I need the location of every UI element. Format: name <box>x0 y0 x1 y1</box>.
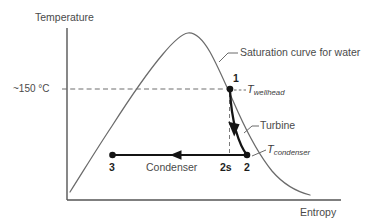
ts-diagram-figure: Temperature Entropy ~150 °C Saturation c… <box>0 0 367 224</box>
x-axis-label: Entropy <box>300 206 336 218</box>
state-point-3-label: 3 <box>109 161 115 173</box>
y-axis-label: Temperature <box>35 11 94 23</box>
turbine-process-curve <box>228 90 247 155</box>
state-point-1-label: 1 <box>233 72 239 84</box>
state-point-2-marker <box>244 152 251 159</box>
t-wellhead-label: Twellhead <box>247 83 285 95</box>
saturation-label-leader-line <box>219 53 238 62</box>
t-wellhead-subscript: wellhead <box>254 88 285 97</box>
diagram-canvas <box>0 0 367 224</box>
state-point-3-marker <box>109 152 116 159</box>
turbine-label: Turbine <box>260 119 295 131</box>
y-axis-tick-label: ~150 °C <box>13 83 50 94</box>
state-point-2s-label: 2s <box>220 161 232 173</box>
saturation-curve-label: Saturation curve for water <box>240 46 360 58</box>
condenser-process-line <box>113 150 247 159</box>
condenser-label: Condenser <box>146 161 197 173</box>
t-condenser-symbol: T <box>267 143 274 155</box>
t-condenser-leader-line <box>252 150 266 156</box>
t-condenser-label: Tcondenser <box>267 143 310 155</box>
condenser-arrowhead <box>170 150 182 159</box>
state-point-2-label: 2 <box>244 161 250 173</box>
t-condenser-subscript: condenser <box>274 148 310 157</box>
state-point-1-marker <box>227 86 234 93</box>
t-wellhead-symbol: T <box>247 83 254 95</box>
